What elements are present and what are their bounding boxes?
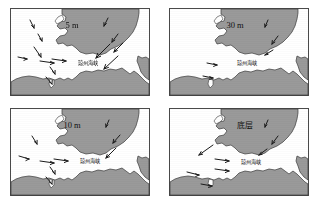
depth-label-30m: 30 m	[226, 20, 244, 30]
depth-label-bottom: 底层	[237, 120, 253, 130]
strait-label-5m: 琼州海峡	[78, 59, 99, 67]
strait-label-30m: 琼州海峡	[237, 59, 258, 67]
map-svg-5m: 5 m 琼州海峡	[10, 8, 150, 96]
map-panel-10m[interactable]: 10 m 琼州海峡	[10, 108, 150, 196]
strait-label-bottom: 琼州海峡	[241, 158, 262, 166]
figure-root: 5 m 琼州海峡	[0, 0, 318, 203]
map-panel-30m[interactable]: 30 m 琼州海峡	[169, 8, 309, 96]
depth-label-10m: 10 m	[63, 120, 81, 130]
map-svg-bottom: 底层 琼州海峡	[169, 108, 309, 196]
map-svg-10m: 10 m 琼州海峡	[10, 108, 150, 196]
depth-label-5m: 5 m	[66, 20, 79, 30]
panel-grid: 5 m 琼州海峡	[0, 0, 318, 203]
map-panel-bottom[interactable]: 底层 琼州海峡	[169, 108, 309, 196]
map-panel-5m[interactable]: 5 m 琼州海峡	[10, 8, 150, 96]
strait-label-10m: 琼州海峡	[80, 157, 101, 165]
map-svg-30m: 30 m 琼州海峡	[169, 8, 309, 96]
